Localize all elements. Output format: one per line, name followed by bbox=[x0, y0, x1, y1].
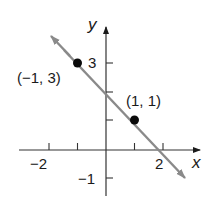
line-series-back-arrow bbox=[51, 36, 70, 56]
x-tick-label-neg2: −2 bbox=[30, 156, 47, 171]
point-label-1-1: (1, 1) bbox=[126, 93, 161, 108]
line-series bbox=[64, 50, 185, 178]
x-tick-label-2: 2 bbox=[155, 156, 163, 171]
point-neg1-3 bbox=[73, 59, 82, 68]
coordinate-plot bbox=[0, 0, 208, 203]
y-tick-label-3: 3 bbox=[88, 55, 96, 70]
x-axis-label: x bbox=[192, 154, 201, 171]
y-axis-label: y bbox=[88, 16, 97, 33]
y-ticks bbox=[106, 63, 113, 178]
point-1-1 bbox=[130, 116, 139, 125]
point-label-neg1-3: (−1, 3) bbox=[17, 70, 61, 85]
y-tick-label-neg1: −1 bbox=[78, 171, 95, 186]
